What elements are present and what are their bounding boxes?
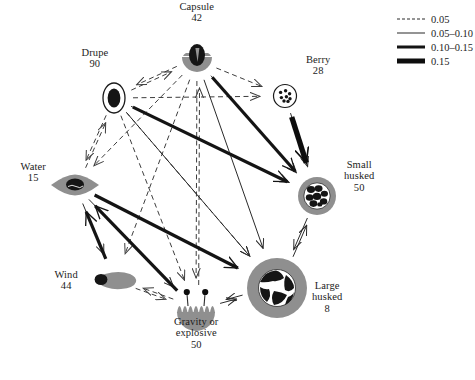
legend-item: 0.05 — [396, 12, 474, 26]
node-label-drupe: Drupe90 — [82, 47, 109, 70]
node-count: 50 — [174, 339, 218, 351]
legend: 0.05 0.05–0.10 0.10–0.15 0.15 — [396, 12, 474, 68]
node-count: 50 — [344, 182, 374, 194]
node-count: 8 — [312, 303, 342, 315]
legend-label: 0.05–0.10 — [426, 28, 473, 39]
node-label-water: Water15 — [21, 161, 46, 184]
node-name: Small — [344, 159, 374, 171]
edge-gravity-to-wind — [143, 288, 173, 299]
edge-drupe-to-gravity — [121, 116, 185, 281]
legend-label: 0.10–0.15 — [426, 42, 473, 53]
legend-label: 0.15 — [426, 56, 449, 67]
legend-item: 0.05–0.10 — [396, 26, 474, 40]
edge-wind-to-water — [86, 212, 106, 259]
dashed-line-icon — [396, 12, 426, 26]
node-label-gravity: Gravity orexplosive50 — [174, 316, 218, 351]
node-label-large: Largehusked8 — [312, 280, 342, 315]
water-icon — [51, 175, 99, 196]
node-name: Berry — [306, 54, 330, 66]
edge-large-to-small — [293, 225, 307, 256]
edge-small-to-large — [294, 218, 308, 250]
capsule-icon — [182, 44, 212, 72]
large-husked-icon — [247, 258, 307, 318]
node-name: Water — [21, 161, 46, 173]
node-label-wind: Wind44 — [55, 269, 78, 292]
node-name: husked — [344, 170, 374, 182]
node-count: 28 — [306, 65, 330, 77]
node-label-capsule: Capsule42 — [180, 1, 215, 24]
node-count: 15 — [21, 172, 46, 184]
node-name: husked — [312, 291, 342, 303]
edge-wind-to-gravity — [136, 288, 166, 299]
edge-water-to-drupe — [86, 123, 106, 168]
drupe-icon — [103, 83, 125, 113]
edge-drupe-to-capsule — [131, 72, 171, 90]
node-name: Wind — [55, 269, 78, 281]
edge-drupe-to-water — [86, 115, 106, 160]
thin-line-icon — [396, 26, 426, 40]
edge-capsule-to-drupe — [137, 66, 177, 84]
node-label-berry: Berry28 — [306, 54, 330, 77]
thick-line-icon — [396, 54, 426, 68]
network-diagram-canvas: Capsule42Drupe90Berry28Water15Smallhuske… — [0, 0, 475, 380]
edge-capsule-to-berry — [216, 68, 262, 87]
node-count: 44 — [55, 280, 78, 292]
node-count: 42 — [180, 12, 215, 24]
nodes-group — [51, 44, 336, 331]
legend-item: 0.15 — [396, 54, 474, 68]
edge-gravity-to-large — [220, 299, 236, 303]
medium-line-icon — [396, 40, 426, 54]
node-name: explosive — [174, 327, 218, 339]
node-name: Large — [312, 280, 342, 292]
berry-icon — [274, 85, 297, 108]
edge-gravity-to-capsule — [199, 88, 200, 285]
edge-water-to-large — [95, 195, 238, 268]
node-count: 90 — [82, 58, 109, 70]
node-name: Drupe — [82, 47, 109, 59]
small-husked-icon — [298, 177, 336, 215]
node-name: Capsule — [180, 1, 215, 13]
edge-berry-to-small — [292, 117, 307, 163]
edge-drupe-to-berry — [133, 96, 260, 98]
edge-large-to-gravity — [226, 295, 242, 299]
legend-item: 0.10–0.15 — [396, 40, 474, 54]
wind-icon — [95, 272, 137, 289]
node-name: Gravity or — [174, 316, 218, 328]
legend-label: 0.05 — [426, 14, 449, 25]
node-label-small: Smallhusked50 — [344, 159, 374, 194]
